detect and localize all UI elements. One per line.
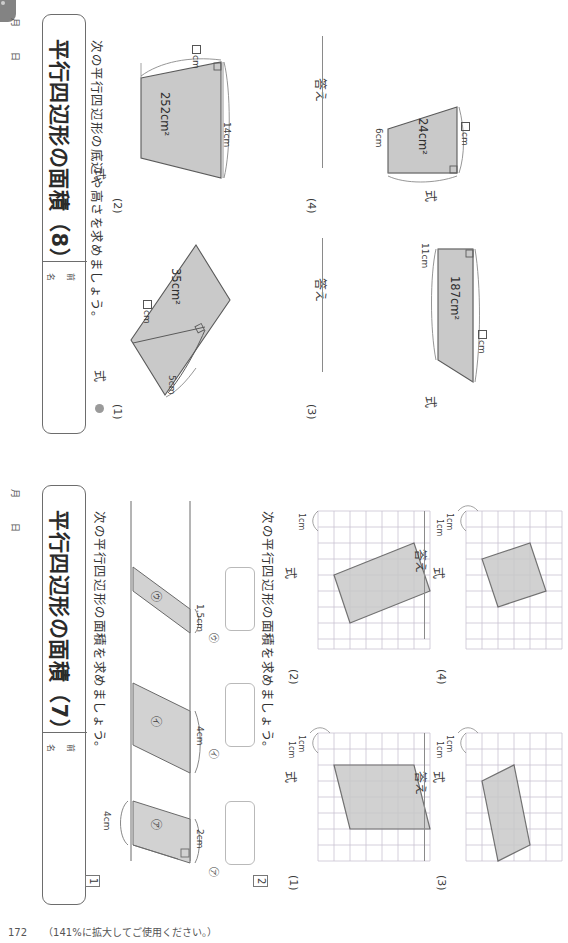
q2-unit-label-4b: 1cm — [435, 519, 444, 536]
unknown-box-icon — [461, 122, 470, 131]
figure-4-side-label: 6cm — [374, 128, 384, 147]
worksheet-page-7: 月 日 平行四辺形の面積（7） 名 前 1 次の平行四辺形の面積を求めましょう。… — [0, 471, 568, 943]
q2-kotae-label-4: 答え — [413, 549, 430, 573]
q2-shiki-label-4: 式 — [431, 567, 448, 579]
figure-4-area-label: 24cm² — [416, 118, 430, 155]
q2-answer-rule-4 — [424, 511, 425, 639]
footer-note: （141%に拡大してご使用ください。） — [43, 927, 217, 938]
footer-page-number: 172 — [8, 927, 27, 938]
q2-figure-4-grid — [0, 471, 568, 943]
answer-rule-4 — [322, 36, 323, 168]
worksheet-page-8: 月 日 平行四辺形の面積（8） 名 前 次の平行四辺形の底辺や高さを求めましょう… — [0, 0, 568, 471]
figure-4-drawing — [0, 0, 568, 471]
page-footer: 172（141%に拡大してご使用ください。） — [8, 924, 217, 939]
figure-4-unknown-label: cm — [460, 122, 470, 146]
shiki-label-4: 式 — [423, 190, 440, 202]
q2-unit-label-4a: 1cm — [445, 513, 454, 530]
